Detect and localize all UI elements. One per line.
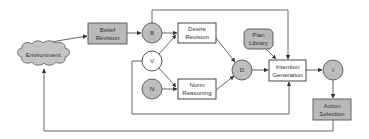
- edge-v-to-desire-revision: [159, 35, 176, 54]
- bdi-architecture-diagram: Environment Belief Revision B V N Desire…: [0, 0, 369, 139]
- node-action-selection: Action Selection: [313, 99, 351, 120]
- i-label: I: [332, 66, 334, 73]
- node-belief-revision: Belief Revision: [88, 23, 127, 44]
- desire-revision-line1: Desire: [188, 25, 206, 32]
- belief-revision-line1: Belief: [100, 26, 116, 33]
- node-norm-reasoning: Norm Reasoning: [178, 79, 216, 99]
- plan-library-line1: Plan: [252, 31, 265, 38]
- node-i: I: [323, 60, 343, 80]
- belief-revision-line2: Revision: [96, 34, 120, 41]
- action-selection-line2: Selection: [319, 110, 345, 117]
- plan-library-line2: Library: [249, 39, 269, 46]
- edge-norm-reasoning-to-d: [216, 76, 234, 90]
- node-b: B: [142, 23, 162, 43]
- edge-v-to-norm-reasoning: [159, 68, 176, 87]
- n-label: N: [150, 85, 154, 92]
- action-selection-line1: Action: [323, 102, 341, 109]
- norm-reasoning-line2: Reasoning: [182, 89, 212, 96]
- edge-plan-library-to-intention-generation: [266, 49, 276, 59]
- edge-desire-revision-to-d: [216, 38, 235, 62]
- norm-reasoning-line1: Norm: [189, 81, 204, 88]
- node-intention-generation: Intention Generation: [269, 60, 306, 81]
- intention-generation-line2: Generation: [272, 71, 303, 78]
- node-desire-revision: Desire Revision: [178, 23, 216, 43]
- intention-generation-line1: Intention: [276, 63, 300, 70]
- node-plan-library: Plan Library: [244, 29, 273, 49]
- desire-revision-line2: Revision: [185, 33, 209, 40]
- b-label: B: [150, 29, 154, 36]
- node-environment: Environment: [18, 41, 70, 65]
- node-v: V: [142, 51, 162, 71]
- environment-label: Environment: [26, 51, 61, 58]
- node-d: D: [232, 60, 252, 80]
- node-n: N: [142, 79, 162, 99]
- d-label: D: [240, 66, 245, 73]
